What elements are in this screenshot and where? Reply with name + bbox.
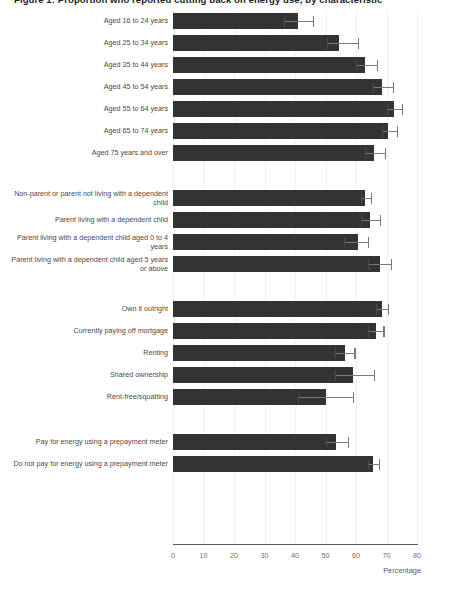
error-bar-line bbox=[335, 375, 375, 376]
error-bar-cap bbox=[376, 304, 377, 315]
bar-row-label: Aged 35 to 44 years bbox=[8, 60, 168, 69]
x-tick-label-40: 40 bbox=[291, 551, 299, 560]
bar bbox=[173, 234, 358, 250]
error-bar-cap bbox=[298, 392, 299, 403]
bar-row-label: Aged 75 years and over bbox=[8, 148, 168, 157]
bar-row: Aged 45 to 54 years bbox=[0, 76, 454, 98]
error-bar-cap bbox=[356, 60, 357, 71]
bar-row: Aged 75 years and over bbox=[0, 142, 454, 164]
error-bar-line bbox=[387, 109, 402, 110]
bar bbox=[173, 57, 365, 73]
bar bbox=[173, 301, 382, 317]
bar-row-label: Parent living with a dependent child bbox=[8, 215, 168, 224]
error-bar-cap bbox=[380, 215, 381, 226]
bar-row-label: Parent living with a dependent child age… bbox=[8, 233, 168, 251]
error-bar-line bbox=[361, 198, 372, 199]
bar-row: Aged 25 to 34 years bbox=[0, 32, 454, 54]
error-bar-cap bbox=[373, 82, 374, 93]
bar bbox=[173, 456, 373, 472]
error-bar-cap bbox=[348, 437, 349, 448]
bar-row: Own it outright bbox=[0, 298, 454, 320]
error-bar-cap bbox=[361, 193, 362, 204]
error-bar-cap bbox=[354, 348, 355, 359]
error-bar-line bbox=[373, 87, 393, 88]
error-bar-cap bbox=[284, 16, 285, 27]
bar-row: Pay for energy using a prepayment meter bbox=[0, 431, 454, 453]
error-bar-cap bbox=[313, 16, 314, 27]
bar-row: Parent living with a dependent child age… bbox=[0, 231, 454, 253]
error-bar-line bbox=[368, 331, 383, 332]
x-tick-label-80: 80 bbox=[413, 551, 421, 560]
bar bbox=[173, 101, 394, 117]
bar bbox=[173, 35, 339, 51]
error-bar-cap bbox=[371, 193, 372, 204]
error-bar-cap bbox=[368, 326, 369, 337]
error-bar-cap bbox=[379, 459, 380, 470]
bar-row-label: Aged 45 to 54 years bbox=[8, 82, 168, 91]
bar-row: Do not pay for energy using a prepayment… bbox=[0, 453, 454, 475]
error-bar-line bbox=[298, 397, 353, 398]
x-tick-label-50: 50 bbox=[322, 551, 330, 560]
bar-row-label: Aged 65 to 74 years bbox=[8, 126, 168, 135]
error-bar-line bbox=[382, 131, 397, 132]
error-bar-line bbox=[335, 353, 355, 354]
bar-row-label: Pay for energy using a prepayment meter bbox=[8, 437, 168, 446]
x-tick-label-60: 60 bbox=[352, 551, 360, 560]
bar bbox=[173, 13, 298, 29]
error-bar-cap bbox=[387, 104, 388, 115]
error-bar-cap bbox=[388, 304, 389, 315]
bar bbox=[173, 367, 353, 383]
error-bar-line bbox=[368, 264, 391, 265]
error-bar-cap bbox=[361, 215, 362, 226]
x-tick-label-0: 0 bbox=[171, 551, 175, 560]
error-bar-line bbox=[327, 43, 358, 44]
error-bar-cap bbox=[374, 370, 375, 381]
error-bar-cap bbox=[402, 104, 403, 115]
error-bar-cap bbox=[368, 459, 369, 470]
bar-row-label: Rent-free/squatting bbox=[8, 392, 168, 401]
x-tick-label-10: 10 bbox=[200, 551, 208, 560]
bar-row-label: Do not pay for energy using a prepayment… bbox=[8, 459, 168, 468]
chart-title: Figure 1: Proportion who reported cuttin… bbox=[14, 0, 382, 5]
x-axis-label: Percentage bbox=[383, 566, 421, 575]
error-bar-cap bbox=[365, 148, 366, 159]
bar-row: Renting bbox=[0, 342, 454, 364]
bar-row: Aged 16 to 24 years bbox=[0, 10, 454, 32]
error-bar-line bbox=[376, 309, 388, 310]
error-bar-line bbox=[284, 21, 312, 22]
bar-row: Non-parent or parent not living with a d… bbox=[0, 187, 454, 209]
error-bar-line bbox=[368, 464, 379, 465]
bar-row: Shared ownership bbox=[0, 364, 454, 386]
bar-row: Parent living with a dependent child age… bbox=[0, 253, 454, 275]
bar-row-label: Own it outright bbox=[8, 304, 168, 313]
error-bar-cap bbox=[326, 437, 327, 448]
error-bar-cap bbox=[353, 392, 354, 403]
error-bar-cap bbox=[382, 126, 383, 137]
error-bar-cap bbox=[383, 326, 384, 337]
bar-row-label: Shared ownership bbox=[8, 370, 168, 379]
error-bar-line bbox=[344, 242, 368, 243]
bar-row: Aged 65 to 74 years bbox=[0, 120, 454, 142]
error-bar-cap bbox=[344, 237, 345, 248]
bar-row-label: Renting bbox=[8, 348, 168, 357]
bar-row-label: Non-parent or parent not living with a d… bbox=[8, 189, 168, 207]
bar-row-label: Aged 55 to 64 years bbox=[8, 104, 168, 113]
bar bbox=[173, 434, 336, 450]
bar bbox=[173, 256, 380, 272]
bar bbox=[173, 345, 345, 361]
error-bar-cap bbox=[377, 60, 378, 71]
bar bbox=[173, 212, 370, 228]
error-bar-cap bbox=[385, 148, 386, 159]
error-bar-cap bbox=[397, 126, 398, 137]
x-tick-label-30: 30 bbox=[261, 551, 269, 560]
error-bar-cap bbox=[391, 259, 392, 270]
bar-row-label: Aged 25 to 34 years bbox=[8, 38, 168, 47]
bar bbox=[173, 145, 374, 161]
x-tick-label-70: 70 bbox=[383, 551, 391, 560]
error-bar-line bbox=[326, 442, 349, 443]
x-tick-label-20: 20 bbox=[230, 551, 238, 560]
x-axis-line bbox=[173, 544, 418, 545]
bar-row: Aged 55 to 64 years bbox=[0, 98, 454, 120]
chart-root: Figure 1: Proportion who reported cuttin… bbox=[0, 0, 454, 590]
error-bar-cap bbox=[368, 259, 369, 270]
